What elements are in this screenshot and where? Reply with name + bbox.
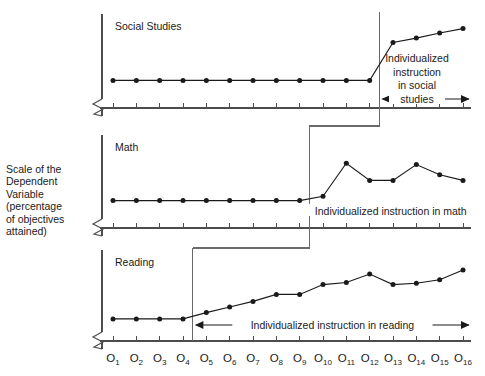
x-axis-tick-labels: O1O2O3O4O5O6O7O8O9O10O11O12O13O14O15O16 <box>106 352 472 367</box>
data-point <box>204 198 209 203</box>
x-axis-tick-label: O1 <box>106 352 120 367</box>
data-point <box>181 316 186 321</box>
data-point <box>134 316 139 321</box>
data-point <box>134 198 139 203</box>
data-point <box>367 78 372 83</box>
data-point <box>111 198 116 203</box>
data-point <box>251 198 256 203</box>
data-point <box>391 282 396 287</box>
data-point <box>204 78 209 83</box>
data-point <box>321 194 326 199</box>
annotation-social-studies: Individualizedinstructionin socialstudie… <box>382 52 469 105</box>
annotation-label: Individualized instruction in reading <box>251 319 415 331</box>
data-point <box>461 267 466 272</box>
x-axis-tick-label: O8 <box>270 352 284 367</box>
data-point <box>111 316 116 321</box>
x-axis-tick-label: O3 <box>153 352 167 367</box>
data-point <box>344 280 349 285</box>
data-point <box>344 78 349 83</box>
data-line-reading <box>113 270 463 319</box>
data-point <box>344 161 349 166</box>
data-point <box>297 292 302 297</box>
panel-title-reading: Reading <box>115 256 154 268</box>
x-axis-tick-label: O11 <box>338 352 356 367</box>
data-point <box>274 78 279 83</box>
x-axis-tick-label: O9 <box>293 352 307 367</box>
data-point <box>274 292 279 297</box>
x-axis-tick-label: O12 <box>361 352 379 367</box>
annotation-line: studies <box>400 93 433 105</box>
data-point <box>414 162 419 167</box>
data-point <box>227 305 232 310</box>
connector-math-to-reading <box>193 228 310 248</box>
data-point <box>227 78 232 83</box>
data-point <box>391 178 396 183</box>
data-point <box>157 316 162 321</box>
data-point <box>461 178 466 183</box>
data-point <box>437 277 442 282</box>
y-axis-label: Scale of the Dependent Variable (percent… <box>6 163 94 237</box>
panel-reading: Reading <box>93 248 471 349</box>
panel-title-social_studies: Social Studies <box>115 20 182 32</box>
data-point <box>414 36 419 41</box>
x-axis-tick-label: O4 <box>176 352 190 367</box>
x-axis-tick-label: O5 <box>200 352 214 367</box>
multiple-baseline-chart: Scale of the Dependent Variable (percent… <box>0 0 485 376</box>
annotation-line: Individualized <box>385 52 449 64</box>
data-point <box>251 299 256 304</box>
x-axis-tick-label: O7 <box>246 352 260 367</box>
data-point <box>297 78 302 83</box>
data-point <box>251 78 256 83</box>
annotation-label: Individualized instruction in math <box>315 205 467 217</box>
data-point <box>367 272 372 277</box>
data-point <box>367 178 372 183</box>
x-axis-tick-label: O15 <box>431 352 449 367</box>
data-point <box>437 30 442 35</box>
connector-social-studies-to-math <box>309 108 379 133</box>
data-point <box>157 78 162 83</box>
x-axis-tick-label: O16 <box>454 352 472 367</box>
data-point <box>274 198 279 203</box>
x-axis-tick-label: O13 <box>384 352 402 367</box>
data-point <box>157 198 162 203</box>
phase-connectors <box>193 108 380 248</box>
data-point <box>111 78 116 83</box>
data-point <box>321 78 326 83</box>
data-point <box>461 26 466 31</box>
data-point <box>181 198 186 203</box>
data-point <box>297 198 302 203</box>
data-point <box>414 281 419 286</box>
x-axis-tick-label: O2 <box>130 352 144 367</box>
x-axis-tick-label: O6 <box>223 352 237 367</box>
data-point <box>181 78 186 83</box>
data-point <box>321 282 326 287</box>
annotation-reading: Individualized instruction in reading <box>196 318 469 331</box>
x-axis-tick-label: O14 <box>407 352 425 367</box>
annotation-math: Individualized instruction in math <box>298 204 483 217</box>
panel-math: Math <box>93 133 471 236</box>
panel-title-math: Math <box>115 141 139 153</box>
annotation-line: instruction <box>393 66 441 78</box>
data-point <box>134 78 139 83</box>
data-point <box>437 172 442 177</box>
data-point <box>227 198 232 203</box>
annotation-line: in social <box>398 79 436 91</box>
data-point <box>204 310 209 315</box>
data-line-math <box>113 163 463 200</box>
data-point <box>391 40 396 45</box>
x-axis-tick-label: O10 <box>314 352 332 367</box>
